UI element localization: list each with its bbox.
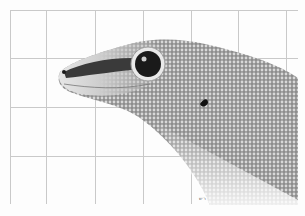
- eye: [135, 51, 161, 77]
- caption-text: ר׳ש: [199, 196, 206, 201]
- photo-stage: ר׳ש: [0, 0, 305, 216]
- gecko-illustration: [0, 0, 305, 216]
- nostril: [62, 70, 66, 74]
